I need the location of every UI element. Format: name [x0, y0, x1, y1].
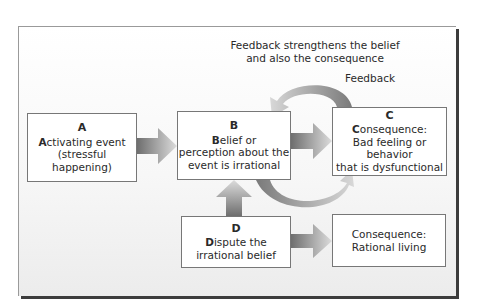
arrow-a-to-b	[137, 128, 177, 164]
box-a-line-2: (stressful happening)	[28, 148, 136, 173]
caption-line-1: Feedback strengthens the belief	[210, 39, 420, 52]
box-b-line-3: event is irrational	[188, 159, 280, 172]
feedback-caption: Feedback strengthens the belief and also…	[210, 39, 420, 65]
box-c-line-2: Bad feeling or behavior	[333, 136, 446, 161]
box-a-letter: A	[78, 122, 87, 135]
arrow-d-to-b	[216, 180, 252, 216]
box-c-letter: C	[385, 110, 393, 123]
box-b-belief: B Belief or perception about the event i…	[177, 111, 291, 180]
box-rational-living: Consequence: Rational living	[332, 214, 446, 267]
box-c-consequence: C Consequence: Bad feeling or behavior t…	[332, 107, 447, 176]
box-rational-line-2: Rational living	[352, 241, 427, 254]
feedback-label: Feedback	[330, 72, 410, 84]
box-a-activating-event: A Activating event (stressful happening)	[27, 113, 137, 182]
box-a-line-1: Activating event	[38, 136, 125, 149]
box-rational-line-1: Consequence:	[352, 228, 427, 241]
box-c-line-1: Consequence:	[352, 123, 427, 136]
box-d-line-2: irrational belief	[196, 249, 276, 262]
box-b-line-1: Belief or	[212, 134, 257, 147]
arrow-d-to-rational	[291, 224, 332, 258]
box-c-line-3: that is dysfunctional	[336, 161, 443, 174]
box-b-line-2: perception about the	[179, 146, 289, 159]
box-d-dispute: D Dispute the irrational belief	[181, 216, 291, 268]
box-d-letter: D	[231, 223, 240, 236]
caption-line-2: and also the consequence	[210, 52, 420, 65]
box-b-letter: B	[230, 120, 238, 133]
box-d-line-1: Dispute the	[205, 236, 267, 249]
arrow-b-to-c	[291, 123, 332, 159]
